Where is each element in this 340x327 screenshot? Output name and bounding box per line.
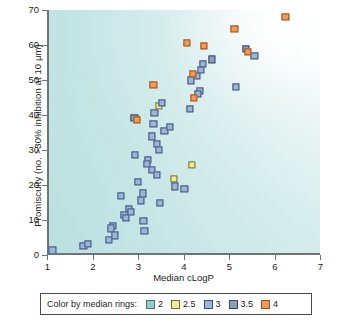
legend-label: 2.5: [183, 299, 196, 309]
data-point: [181, 185, 188, 192]
x-tick: 5: [229, 255, 230, 260]
data-point: [117, 192, 124, 199]
data-point: [170, 175, 177, 182]
data-point: [49, 247, 56, 254]
x-tick-label: 6: [269, 261, 282, 272]
x-tick: 6: [275, 255, 276, 260]
data-point: [132, 151, 139, 158]
x-tick-label: 1: [41, 261, 54, 272]
x-tick: 7: [320, 255, 321, 260]
data-point: [190, 95, 197, 102]
data-point: [199, 61, 206, 68]
data-point: [156, 200, 163, 207]
data-point: [172, 183, 179, 190]
data-point: [282, 13, 289, 20]
plot-area: 010203040506070 1234567: [47, 10, 320, 255]
data-point: [251, 52, 258, 59]
y-tick-label: 50: [28, 74, 39, 85]
data-point: [188, 161, 195, 168]
x-tick: 3: [138, 255, 139, 260]
data-point: [166, 124, 173, 131]
legend: Color by median rings: 22.533.54: [40, 293, 312, 315]
data-point: [231, 25, 238, 32]
y-tick-label: 0: [34, 249, 39, 260]
y-tick: 30: [42, 150, 47, 151]
data-point: [200, 42, 207, 49]
legend-label: 3.5: [241, 299, 254, 309]
legend-swatch-icon: [204, 300, 213, 309]
legend-item[interactable]: 2.5: [171, 299, 196, 309]
legend-swatch-icon: [171, 300, 180, 309]
data-point: [134, 178, 141, 185]
legend-item[interactable]: 4: [261, 299, 278, 309]
legend-swatch-icon: [229, 300, 238, 309]
data-point: [140, 217, 147, 224]
y-tick: 50: [42, 80, 47, 81]
x-tick-label: 5: [223, 261, 236, 272]
legend-label: 3: [216, 299, 221, 309]
y-tick-label: 70: [28, 4, 39, 15]
y-axis-line: [47, 10, 49, 255]
legend-label: 2: [158, 299, 163, 309]
data-point: [133, 116, 140, 123]
data-point: [184, 40, 191, 47]
x-tick-label: 3: [132, 261, 145, 272]
legend-swatch-icon: [146, 300, 155, 309]
data-point: [139, 190, 146, 197]
y-tick-label: 20: [28, 179, 39, 190]
data-point: [186, 105, 193, 112]
x-tick: 1: [47, 255, 48, 260]
data-point: [245, 48, 252, 55]
legend-title: Color by median rings:: [47, 299, 137, 309]
data-point: [137, 197, 144, 204]
y-tick: 10: [42, 220, 47, 221]
y-tick-label: 60: [28, 39, 39, 50]
legend-swatch-icon: [261, 300, 270, 309]
data-point: [141, 227, 148, 234]
data-point: [158, 99, 165, 106]
data-point: [155, 146, 162, 153]
y-tick-label: 40: [28, 109, 39, 120]
y-tick: 60: [42, 45, 47, 46]
data-point: [150, 120, 157, 127]
legend-items: 22.533.54: [146, 299, 286, 309]
data-point: [150, 81, 157, 88]
legend-item[interactable]: 3.5: [229, 299, 254, 309]
x-tick-label: 7: [314, 261, 327, 272]
x-axis-title: Median cLogP: [47, 272, 320, 283]
legend-item[interactable]: 2: [146, 299, 163, 309]
data-point: [154, 171, 161, 178]
x-tick-label: 2: [87, 261, 100, 272]
data-point: [208, 56, 215, 63]
legend-label: 4: [273, 299, 278, 309]
data-point: [189, 70, 196, 77]
y-tick: 40: [42, 115, 47, 116]
y-tick: 70: [42, 10, 47, 11]
x-tick: 2: [93, 255, 94, 260]
y-tick: 20: [42, 185, 47, 186]
x-tick: 4: [184, 255, 185, 260]
data-point: [84, 240, 91, 247]
data-point: [233, 83, 240, 90]
y-tick-label: 30: [28, 144, 39, 155]
scatter-plot-figure: Promiscuity (no. >30% inhibition at 10 μ…: [0, 0, 340, 327]
y-tick-label: 10: [28, 214, 39, 225]
data-point: [112, 232, 119, 239]
data-point: [123, 214, 130, 221]
data-point: [127, 208, 134, 215]
x-tick-label: 4: [178, 261, 191, 272]
data-point: [151, 109, 158, 116]
legend-item[interactable]: 3: [204, 299, 221, 309]
data-point: [148, 133, 155, 140]
